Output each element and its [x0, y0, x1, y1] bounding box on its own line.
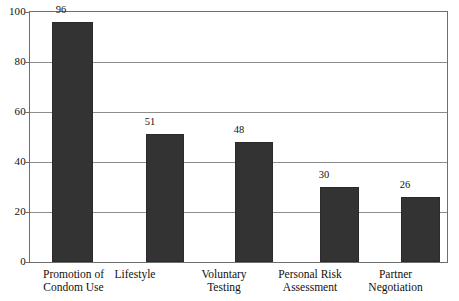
bar-value-label-3: 48: [209, 124, 269, 135]
bar-personal-risk-assessment: [320, 187, 359, 262]
bar-value-label-2: 51: [120, 116, 180, 127]
category-label-partner-negotiation: Partner Negotiation: [351, 268, 440, 294]
category-label-lifestyle: Lifestyle: [105, 268, 165, 281]
bar-chart: 100 80 60 40 20 0 96 51 48 30 26 Promoti…: [0, 0, 459, 301]
bar-value-label-1: 96: [31, 4, 91, 15]
bar-value-label-4: 30: [294, 169, 354, 180]
y-tick-label-0: 0: [0, 256, 26, 267]
bar-value-label-5: 26: [375, 179, 435, 190]
bar-promotion-of-condom-use: [52, 22, 93, 262]
y-tick-mark-100: [25, 12, 30, 13]
y-tick-mark-40: [25, 162, 30, 163]
category-label-personal-risk-assessment: Personal Risk Assessment: [264, 268, 356, 294]
bar-partner-negotiation: [401, 197, 440, 262]
category-label-voluntary-testing: Voluntary Testing: [189, 268, 259, 294]
y-axis-labels: 100 80 60 40 20 0: [0, 0, 26, 301]
bar-voluntary-testing: [235, 142, 273, 262]
y-tick-label-40: 40: [0, 156, 26, 167]
y-tick-label-60: 60: [0, 106, 26, 117]
y-tick-label-20: 20: [0, 206, 26, 217]
y-tick-label-100: 100: [0, 6, 26, 17]
y-tick-mark-20: [25, 212, 30, 213]
plot-area: [29, 11, 448, 263]
bar-lifestyle: [146, 134, 184, 262]
y-tick-mark-60: [25, 112, 30, 113]
y-tick-mark-0: [25, 262, 30, 263]
y-tick-mark-80: [25, 62, 30, 63]
y-tick-label-80: 80: [0, 56, 26, 67]
